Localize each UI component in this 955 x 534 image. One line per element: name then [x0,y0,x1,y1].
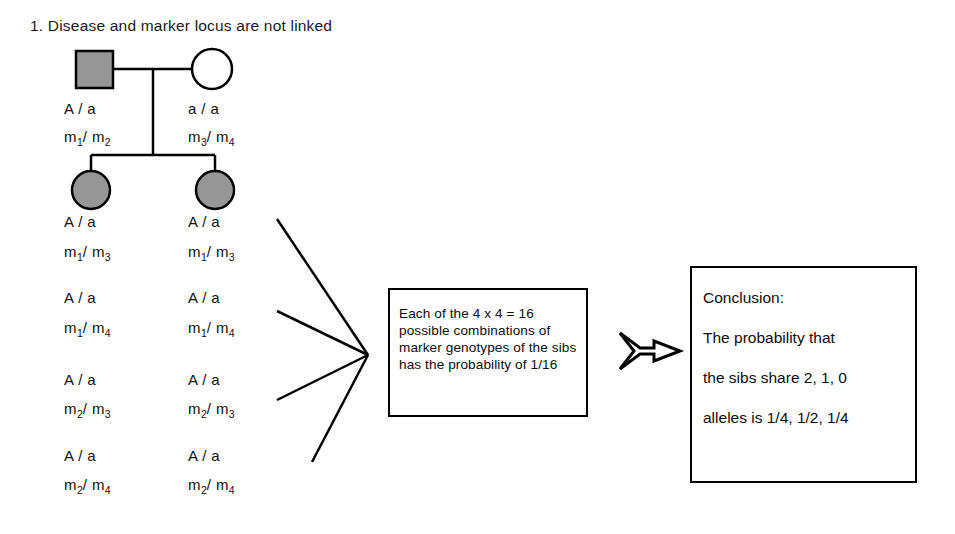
mother-marker-genotype: m3/ m4 [188,128,235,145]
sib-right-m-2a: m [188,319,201,336]
conclusion-line-1: Conclusion: [703,278,915,318]
conclusion-line-4: alleles is 1/4, 1/2, 1/4 [703,398,915,438]
sib-right-disease-genotype-2: A / a [188,289,220,306]
mother-disease-genotype: a / a [188,100,219,117]
conclusion-box: Conclusion: The probability that the sib… [690,266,917,483]
sib-right-sub-2a: 1 [201,327,207,339]
sib-right-circle-symbol [196,171,234,209]
sib-left-sub-1b: 3 [105,251,111,263]
sib-left-sub-3a: 2 [77,408,83,420]
sib-right-sub-3b: 3 [229,408,235,420]
sib-right-mid-2: / m [207,319,229,336]
sib-left-m-1a: m [64,243,77,260]
sib-right-sub-1b: 3 [229,251,235,263]
sib-right-mid-1: / m [207,243,229,260]
sib-left-marker-genotype-1: m1/ m3 [64,243,111,260]
sib-left-disease-genotype-2: A / a [64,289,96,306]
conclusion-box-text: Conclusion: The probability that the sib… [703,278,915,438]
father-marker-sep: / m [83,128,105,145]
converge-line-1 [277,219,368,355]
mother-circle-symbol [192,49,232,89]
father-disease-genotype: A / a [64,100,96,117]
sib-right-sub-4a: 2 [201,484,207,496]
sib-right-mid-3: / m [207,400,229,417]
sib-left-sub-2a: 1 [77,327,83,339]
sib-left-m-4a: m [64,476,77,493]
sib-left-mid-2: / m [83,319,105,336]
sib-right-m-3a: m [188,400,201,417]
mother-marker-sep: / m [207,128,229,145]
sib-right-m-1a: m [188,243,201,260]
sib-left-disease-genotype-1: A / a [64,213,96,230]
converge-line-3 [277,355,368,400]
sib-right-mid-4: / m [207,476,229,493]
converge-line-4 [312,355,368,462]
father-marker-m2-sub: 2 [105,136,111,148]
sib-left-circle-symbol [72,171,110,209]
sib-right-marker-genotype-3: m2/ m3 [188,400,235,417]
diagram-canvas: 1. Disease and marker locus are not link… [0,0,955,534]
sib-right-disease-genotype-3: A / a [188,371,220,388]
converge-line-2 [277,311,368,355]
sib-left-sub-4a: 2 [77,484,83,496]
sib-left-disease-genotype-4: A / a [64,447,96,464]
sib-left-sub-1a: 1 [77,251,83,263]
mother-marker-m4-sub: 4 [229,136,235,148]
sib-right-m-4a: m [188,476,201,493]
sib-left-marker-genotype-3: m2/ m3 [64,400,111,417]
sib-right-sub-2b: 4 [229,327,235,339]
sib-right-sub-3a: 2 [201,408,207,420]
conclusion-line-3: the sibs share 2, 1, 0 [703,358,915,398]
father-marker-m1: m1 [64,128,83,145]
sib-left-marker-genotype-2: m1/ m4 [64,319,111,336]
sib-left-m-3a: m [64,400,77,417]
sib-left-mid-4: / m [83,476,105,493]
sib-left-disease-genotype-3: A / a [64,371,96,388]
father-marker-genotype: m1/ m2 [64,128,111,145]
block-arrow-icon [620,333,680,369]
page-title: 1. Disease and marker locus are not link… [30,17,332,35]
mother-marker-m3: m3 [188,128,207,145]
sib-right-marker-genotype-2: m1/ m4 [188,319,235,336]
sib-left-marker-genotype-4: m2/ m4 [64,476,111,493]
sib-left-mid-3: / m [83,400,105,417]
sib-left-m-2a: m [64,319,77,336]
probability-box: Each of the 4 x 4 = 16 possible combinat… [388,288,588,417]
sib-right-marker-genotype-1: m1/ m3 [188,243,235,260]
sib-right-disease-genotype-4: A / a [188,447,220,464]
father-square-symbol [76,51,113,88]
sib-right-sub-1a: 1 [201,251,207,263]
sib-left-sub-3b: 3 [105,408,111,420]
conclusion-line-2: The probability that [703,318,915,358]
probability-box-text: Each of the 4 x 4 = 16 possible combinat… [399,305,587,373]
sib-right-sub-4b: 4 [229,484,235,496]
sib-left-sub-2b: 4 [105,327,111,339]
sib-left-sub-4b: 4 [105,484,111,496]
sib-left-mid-1: / m [83,243,105,260]
sib-right-disease-genotype-1: A / a [188,213,220,230]
sib-right-marker-genotype-4: m2/ m4 [188,476,235,493]
